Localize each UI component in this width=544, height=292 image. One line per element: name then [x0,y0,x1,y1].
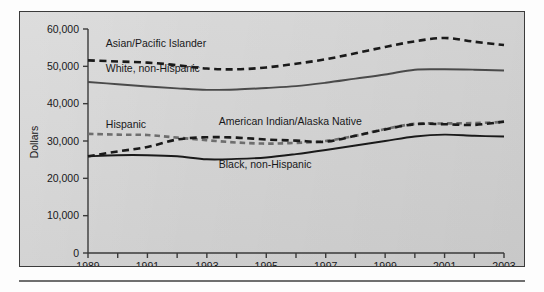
x-tick-label: 1991 [136,260,160,266]
y-axis-ticks: 010,00020,00030,00040,00050,00060,000 [47,23,88,259]
x-tick-label: 2001 [433,260,457,266]
series-lines [88,38,504,160]
x-tick-label: 2003 [492,260,516,266]
y-tick-label: 50,000 [47,60,79,72]
x-tick-label: 1989 [76,260,100,266]
y-tick-label: 40,000 [47,97,79,109]
chart-figure-frame: 010,00020,00030,00040,00050,00060,000 19… [19,11,525,267]
y-tick-label: 30,000 [47,135,79,147]
y-axis-title: Dollars [28,126,40,159]
x-tick-label: 1995 [255,260,279,266]
y-tick-label: 60,000 [47,23,79,35]
figure-page: 010,00020,00030,00040,00050,00060,000 19… [0,0,544,292]
figure-bottom-rule [19,280,525,282]
series-label-4: Black, non-Hispanic [219,158,312,170]
line-chart: 010,00020,00030,00040,00050,00060,000 19… [20,12,524,266]
series-label-1: White, non-Hispanic [106,62,200,74]
x-axis-ticks: 19891991199319951997199920012003 [76,253,516,266]
x-tick-label: 1999 [373,260,397,266]
x-tick-label: 1997 [314,260,338,266]
y-tick-label: 0 [73,247,79,259]
series-label-0: Asian/Pacific Islander [106,37,207,49]
series-label-3: American Indian/Alaska Native [219,115,362,127]
x-tick-label: 1993 [195,260,219,266]
y-tick-label: 20,000 [47,172,79,184]
series-label-2: Hispanic [106,118,146,130]
y-tick-label: 10,000 [47,209,79,221]
